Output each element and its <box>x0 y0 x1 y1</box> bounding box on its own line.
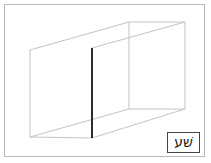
edge-bottom-front-left-to-front-right <box>30 137 92 138</box>
box-vertical-edges <box>30 22 185 137</box>
edge-top-front-left-to-back-left <box>30 22 129 50</box>
box-bottom-face-edges <box>30 109 185 138</box>
edge-top-front-right-to-back-right <box>92 22 185 48</box>
box-top-face-edges <box>30 22 185 50</box>
hebrew-label-box: שׁע <box>167 132 200 153</box>
figure-root: שׁע <box>0 0 211 163</box>
edge-bottom-front-left-to-back-left <box>30 109 129 137</box>
hebrew-label-text: שׁע <box>174 135 193 150</box>
